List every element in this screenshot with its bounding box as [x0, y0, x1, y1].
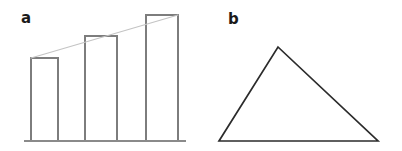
panel-b: b [201, 0, 402, 151]
panel-a: a [0, 0, 201, 151]
bar-3 [146, 15, 178, 141]
panel-a-chart [0, 0, 201, 151]
triangle-shape [219, 47, 378, 141]
bar-2 [85, 36, 117, 141]
panel-b-triangle-diagram [201, 0, 402, 151]
figure-root: a b [0, 0, 402, 151]
bar-1 [31, 58, 58, 141]
